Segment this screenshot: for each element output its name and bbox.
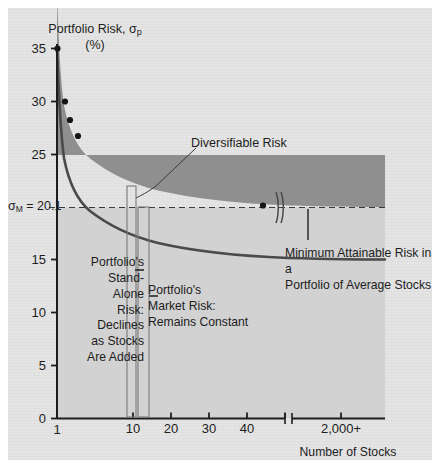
- y-tick-label-10: 10: [12, 305, 46, 320]
- min-attain-line-2: Portfolio of Average Stocks: [285, 278, 431, 292]
- stand-alone-line-2: Stand-: [108, 271, 144, 285]
- y-tick-label-5: 5: [12, 358, 46, 373]
- stand-alone-line-4: Risk:: [117, 303, 144, 317]
- stand-alone-line-1: Portfolio's: [91, 255, 144, 269]
- min-attain-line-1: Minimum Attainable Risk in a: [285, 246, 431, 276]
- y-axis-title-subscript: p: [137, 27, 142, 37]
- x-axis-title-line1: Number of Stocks: [300, 445, 397, 459]
- y-axis-title: Portfolio Risk, σp (%): [30, 22, 160, 54]
- asymptote-label: σM = 20.1: [8, 199, 56, 214]
- annotation-market-risk: Portfolio's Market Risk: Remains Constan…: [148, 283, 248, 331]
- asymptote-sigma: σ: [8, 199, 16, 213]
- y-tick-label-30: 30: [12, 94, 46, 109]
- annotation-stand-alone-risk: Portfolio's Stand- Alone Risk: Declines …: [60, 255, 144, 366]
- y-axis-title-main: Portfolio Risk, σ: [48, 22, 136, 36]
- market-risk-line-1: Portfolio's: [148, 283, 201, 297]
- x-tick-label-20: 20: [158, 421, 184, 436]
- x-tick-label-40: 40: [234, 421, 260, 436]
- y-tick-label-0: 0: [12, 411, 46, 426]
- x-axis-title: Number of Stocks in the Portfolio: [288, 445, 408, 460]
- y-axis-title-units: (%): [85, 38, 104, 52]
- y-tick-label-25: 25: [12, 147, 46, 162]
- y-tick-label-35: 35: [12, 41, 46, 56]
- diversifiable-leader-hook: [136, 186, 156, 198]
- figure-panel: Portfolio Risk, σp (%) 35 30 25 15 10 5 …: [8, 8, 432, 460]
- stand-alone-line-7: Are Added: [87, 350, 144, 364]
- asymptote-subscript: M: [16, 204, 23, 214]
- stand-alone-line-6: as Stocks: [91, 334, 144, 348]
- asymptote-value: = 20.1: [26, 199, 61, 213]
- x-tick-label-30: 30: [196, 421, 222, 436]
- x-tick-label-10: 10: [120, 421, 146, 436]
- market-risk-line-2: Market Risk:: [148, 299, 216, 313]
- stand-alone-line-5: Declines: [97, 318, 144, 332]
- annotation-diversifiable-risk: Diversifiable Risk: [191, 136, 287, 150]
- chart-canvas: [8, 8, 432, 460]
- stand-alone-line-3: Alone: [113, 287, 144, 301]
- y-tick-label-15: 15: [12, 252, 46, 267]
- market-risk-line-3: Remains Constant: [148, 315, 248, 329]
- x-tick-label-1: 1: [48, 422, 66, 437]
- annotation-minimum-attainable-risk: Minimum Attainable Risk in a Portfolio o…: [285, 246, 432, 294]
- x-tick-label-2000: 2,000+: [308, 421, 374, 436]
